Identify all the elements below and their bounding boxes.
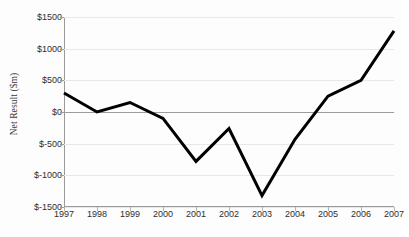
x-tick-mark (394, 207, 395, 211)
x-tick-mark (97, 207, 98, 211)
y-tick-label: $-1500 (16, 203, 62, 212)
x-tick-label: 2007 (374, 210, 409, 220)
y-tick-label: $1000 (16, 44, 62, 53)
x-axis-tick-labels: 1997199819992000200120022003200420052006… (64, 210, 394, 230)
y-tick-label: $0 (16, 108, 62, 117)
x-tick-mark (130, 207, 131, 211)
x-tick-label: 2005 (308, 210, 348, 220)
y-tick-label: $-500 (16, 139, 62, 148)
x-tick-mark (163, 207, 164, 211)
y-axis-title-label: Net Result ($m) (9, 72, 19, 135)
x-tick-label: 1998 (77, 210, 117, 220)
x-tick-label: 2004 (275, 210, 315, 220)
series-polyline (64, 31, 394, 196)
x-tick-label: 2000 (143, 210, 183, 220)
x-tick-label: 2006 (341, 210, 381, 220)
x-tick-mark (361, 207, 362, 211)
x-tick-mark (262, 207, 263, 211)
x-tick-mark (229, 207, 230, 211)
data-series-net-result (64, 17, 394, 207)
x-tick-mark (328, 207, 329, 211)
y-axis-title: Net Result ($m) (2, 0, 26, 207)
x-tick-label: 1999 (110, 210, 150, 220)
y-axis-tick-labels: $1500$1000$500$0$-500$-1000$-1500 (10, 0, 62, 237)
x-tick-label: 1997 (44, 210, 84, 220)
y-tick-label: $500 (16, 76, 62, 85)
x-tick-label: 2002 (209, 210, 249, 220)
y-tick-label: $1500 (16, 13, 62, 22)
x-tick-label: 2001 (176, 210, 216, 220)
x-tick-label: 2003 (242, 210, 282, 220)
y-tick-label: $-1000 (16, 171, 62, 180)
x-tick-mark (196, 207, 197, 211)
x-tick-mark (64, 207, 65, 211)
x-tick-mark (295, 207, 296, 211)
plot-area (64, 17, 394, 207)
